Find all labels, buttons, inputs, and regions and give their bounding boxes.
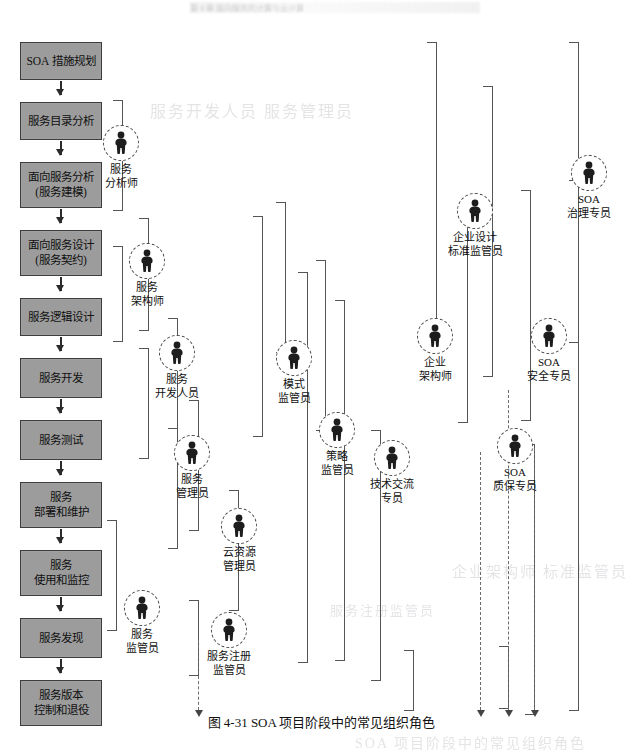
connector-elbow (113, 210, 123, 211)
connector-elbow (521, 420, 531, 421)
role-node[interactable]: 企业 架构师 (398, 318, 472, 383)
flow-arrow (60, 399, 62, 413)
role-label: 服务 分析师 (84, 163, 158, 190)
role-node[interactable]: 服务 管理员 (155, 435, 229, 500)
connector-elbow (521, 190, 531, 191)
process-stage-label: 服务开发 (37, 371, 85, 386)
role-label: 模式 监管员 (257, 378, 331, 405)
connector-elbow (458, 422, 468, 423)
connector-elbow (483, 86, 493, 87)
ghost-text: 服务注册监管员 (330, 600, 435, 619)
flow-arrow (60, 461, 62, 475)
role-label: 服务 监管员 (105, 628, 179, 655)
process-stage-box[interactable]: 服务测试 (20, 420, 102, 460)
process-stage-box[interactable]: 服务开发 (20, 358, 102, 398)
connector-elbow (253, 436, 263, 437)
role-label: SOA 治理专员 (552, 193, 626, 220)
connector-elbow (113, 341, 123, 342)
role-label: 企业设计 标准监管员 (438, 231, 512, 258)
role-node[interactable]: SOA 安全专员 (512, 318, 586, 383)
connector-elbow (298, 272, 308, 273)
flow-arrow (60, 659, 62, 673)
person-icon (174, 435, 210, 471)
process-stage-label: 服务逻辑设计 (26, 310, 96, 325)
connector-elbow (569, 42, 579, 43)
person-icon (276, 340, 312, 376)
role-node[interactable]: 技术交流 专员 (355, 440, 429, 505)
flow-arrow (60, 597, 62, 611)
person-icon (211, 612, 247, 648)
connector-elbow (168, 428, 178, 429)
flow-arrow (60, 209, 62, 223)
role-node[interactable]: 云资源 管理员 (202, 508, 276, 573)
role-node[interactable]: 服务 架构师 (110, 243, 184, 308)
role-node[interactable]: 服务 开发人员 (140, 335, 214, 400)
role-label: SOA 安全专员 (512, 356, 586, 383)
process-stage-box[interactable]: 服务发现 (20, 618, 102, 658)
role-label: 企业 架构师 (398, 356, 472, 383)
role-label: SOA 质保专员 (478, 466, 552, 493)
connector-line (344, 300, 345, 660)
page-header-ghost: 第 4 章 面向服务的计算与云计算 (190, 2, 480, 13)
connector-elbow (404, 650, 414, 651)
role-label: 技术交流 专员 (355, 478, 429, 505)
ghost-text: 企业架构师 标准监管员 (452, 560, 628, 581)
person-icon (124, 590, 160, 626)
ghost-text: SOA 项目阶段中的常见组织角色 (355, 732, 586, 752)
process-stage-label: 面向服务设计 (26, 238, 96, 253)
role-label: 服务注册 监管员 (192, 650, 266, 677)
connector-elbow (404, 710, 414, 711)
process-stage-box[interactable]: 服务逻辑设计 (20, 298, 102, 336)
flow-arrow (60, 277, 62, 291)
process-stage-label: 服务测试 (37, 433, 85, 448)
role-node[interactable]: 服务注册 监管员 (192, 612, 266, 677)
connector-elbow (139, 218, 149, 219)
role-node[interactable]: 模式 监管员 (257, 340, 331, 405)
connector-elbow (168, 548, 178, 549)
connector-line (436, 42, 437, 332)
connector-elbow (139, 458, 149, 459)
connector-elbow (371, 680, 381, 681)
role-label: 服务 开发人员 (140, 373, 214, 400)
connector-elbow (483, 376, 493, 377)
connector-elbow (139, 330, 149, 331)
connector-elbow (229, 490, 239, 491)
person-icon (571, 155, 607, 191)
person-icon (417, 318, 453, 354)
person-icon (221, 508, 257, 544)
process-stage-label: (服务契约) (26, 253, 96, 268)
process-stage-label: 服务 (32, 558, 91, 573)
figure-caption: 图 4-31 SOA 项目阶段中的常见组织角色 (0, 712, 643, 731)
process-stage-label: 服务版本 (32, 688, 91, 703)
role-node[interactable]: 企业设计 标准监管员 (438, 193, 512, 258)
connector-elbow (113, 100, 123, 101)
connector-elbow (335, 300, 345, 301)
connector-elbow (316, 260, 326, 261)
process-stage-box[interactable]: 服务使用和监控 (20, 550, 102, 596)
role-node[interactable]: 服务 监管员 (105, 590, 179, 655)
person-icon (319, 412, 355, 448)
role-node[interactable]: SOA 治理专员 (552, 155, 626, 220)
process-stage-box[interactable]: 面向服务设计(服务契约) (20, 230, 102, 276)
process-stage-label: 服务发现 (37, 631, 85, 646)
person-icon (457, 193, 493, 229)
role-node[interactable]: SOA 质保专员 (478, 428, 552, 493)
process-stage-box[interactable]: SOA 措施规划 (20, 42, 102, 80)
process-stage-label: 服务 (32, 490, 91, 505)
person-icon (103, 125, 139, 161)
connector-elbow (229, 610, 239, 611)
connector-elbow (189, 400, 199, 401)
role-node[interactable]: 服务 分析师 (84, 125, 158, 190)
connector-elbow (276, 202, 286, 203)
figure-canvas: 第 4 章 面向服务的计算与云计算 服务开发人员 服务管理员SOA 项目阶段中的… (0, 0, 643, 754)
process-stage-box[interactable]: 服务部署和维护 (20, 482, 102, 528)
connector-line (285, 202, 286, 352)
connector-line (530, 190, 531, 420)
connector-elbow (569, 710, 579, 711)
connector-elbow (335, 660, 345, 661)
connector-elbow (427, 42, 437, 43)
flow-arrow (60, 141, 62, 155)
role-label: 服务 架构师 (110, 281, 184, 308)
flow-arrow (60, 81, 62, 95)
role-label: 云资源 管理员 (202, 546, 276, 573)
